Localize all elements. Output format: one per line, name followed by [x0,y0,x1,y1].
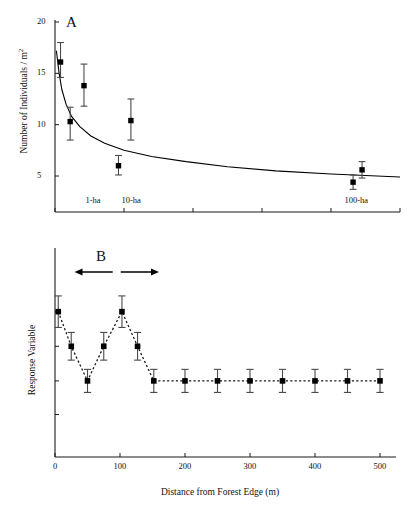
panel-b-data-point [118,296,125,328]
square-marker [119,309,125,315]
square-marker [68,343,74,349]
square-marker [135,343,141,349]
arrow-head-right-icon [151,269,159,276]
panel-b-data-point [134,332,141,360]
panel-a-y-tick-label: 20 [37,16,46,26]
panel-b-data-point [55,296,62,328]
panel-b-x-tick-label: 300 [244,461,257,471]
panel-b-data-point [246,369,253,392]
square-marker [101,343,107,349]
panel-a-y-tick-label: 15 [37,67,46,77]
panel-b-data-point [311,369,318,392]
panel-a-annotation-100-ha: 100-ha [345,195,369,205]
arrow-head-left-icon [75,269,83,276]
panel-b-data-point [279,369,286,392]
figure-container: A Number of Individuals / m2 B Response … [0,0,410,510]
panel-b-data-point [84,369,91,392]
square-marker [55,309,61,315]
panel-b-x-tick-label: 0 [53,461,57,471]
panel-a-y-tick-label: 10 [37,119,46,129]
square-marker [215,378,221,384]
panel-a-annotation-10-ha: 10-ha [121,195,140,205]
square-marker [280,378,286,384]
square-marker [151,378,157,384]
panel-b-data-point [376,369,383,392]
panel-b-data-point [68,332,75,360]
panel-b-x-tick-label: 500 [374,461,387,471]
panel-b-data-point [100,332,107,360]
square-marker [345,378,351,384]
panel-b-x-tick-label: 400 [309,461,322,471]
square-marker [377,378,383,384]
panel-a-y-tick-label: 5 [37,170,41,180]
panel-b-data-point [214,369,221,392]
panel-b-x-tick-label: 100 [114,461,127,471]
square-marker [247,378,253,384]
panel-b-plot [0,0,410,510]
square-marker [182,378,188,384]
panel-b-extent-arrow [75,269,160,276]
panel-b-x-tick-label: 200 [179,461,192,471]
panel-b-data-point [344,369,351,392]
square-marker [85,378,91,384]
square-marker [312,378,318,384]
panel-b-data-point [150,369,157,392]
panel-b-data-point [181,369,188,392]
panel-a-annotation-1-ha: 1-ha [85,195,100,205]
